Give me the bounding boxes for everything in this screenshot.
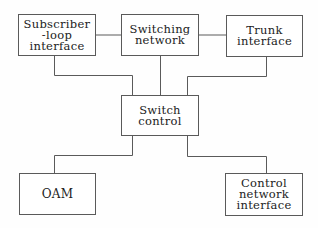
edge-subscriber-control <box>55 56 133 95</box>
switching-network-box: Switching network <box>121 14 199 56</box>
trunk-interface-box: Trunk interface <box>226 15 303 57</box>
edge-control-oam <box>55 136 133 173</box>
switch-architecture-diagram: Subscriber -loop interface Switching net… <box>0 0 318 228</box>
oam-box: OAM <box>19 173 96 215</box>
edge-control-network <box>188 136 267 173</box>
subscriber-loop-interface-box: Subscriber -loop interface <box>18 14 96 56</box>
edge-trunk-control <box>188 57 267 95</box>
subscriber-loop-interface-label: Subscriber -loop interface <box>24 19 91 52</box>
control-network-interface-label: Control network interface <box>236 178 291 211</box>
switching-network-label: Switching network <box>129 24 190 46</box>
switch-control-label: Switch control <box>138 105 182 127</box>
trunk-interface-label: Trunk interface <box>237 25 292 47</box>
oam-label: OAM <box>42 189 74 200</box>
control-network-interface-box: Control network interface <box>225 173 303 216</box>
switch-control-box: Switch control <box>121 95 199 136</box>
